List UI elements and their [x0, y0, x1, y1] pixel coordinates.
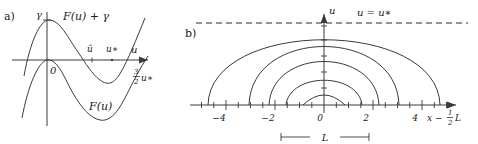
curve-F — [22, 56, 148, 120]
x-tick-label-1: −2 — [261, 113, 275, 123]
panel-a-x-axis-label: u — [131, 44, 137, 55]
x-axis-label-main: x − — [427, 113, 442, 123]
panel-b-label: b) — [185, 27, 196, 40]
x-axis-label-tail: L — [454, 113, 461, 123]
panel-b-x-axis — [190, 102, 456, 109]
x-tick-label-3: 2 — [362, 113, 369, 123]
three-halves-denominator: 2 — [133, 78, 139, 86]
three-halves-numerator: 3 — [134, 68, 139, 76]
u-star-label: u∗ — [106, 44, 118, 54]
curve-F-plus-gamma-label: F(u) + γ — [62, 10, 110, 23]
panel-a-label: a) — [4, 10, 15, 23]
width-bracket-label: L — [321, 132, 329, 143]
curve-F-plus-gamma — [24, 18, 145, 83]
panel-b: b) u = u∗ u −4 −2 0 2 4 x − 1 2 L — [180, 0, 478, 144]
figure-container: a) γ F(u) + γ F(u) 0 û u∗ u 3 2 u∗ — [0, 0, 478, 144]
x-tick-label-4: 4 — [411, 113, 418, 123]
panel-b-y-axis-label: u — [329, 5, 335, 16]
panel-a-svg: a) γ F(u) + γ F(u) 0 û u∗ u 3 2 u∗ — [0, 0, 180, 144]
panel-a: a) γ F(u) + γ F(u) 0 û u∗ u 3 2 u∗ — [0, 0, 180, 144]
u-hat-label: û — [87, 44, 93, 54]
x-tick-label-2: 0 — [317, 113, 323, 123]
three-halves-variable: u∗ — [141, 73, 153, 83]
u-star-dot — [111, 59, 113, 61]
x-tick-label-0: −4 — [212, 113, 226, 123]
asymptote-label: u = u∗ — [357, 7, 391, 18]
gamma-label: γ — [36, 9, 42, 20]
x-axis-label-frac-numer: 1 — [448, 109, 452, 117]
panel-b-svg: b) u = u∗ u −4 −2 0 2 4 x − 1 2 L — [180, 0, 478, 144]
curve-F-label: F(u) — [88, 100, 112, 113]
panel-a-origin-label: 0 — [50, 65, 57, 76]
x-axis-label-frac-denom: 2 — [447, 119, 453, 127]
panel-b-y-axis — [321, 14, 328, 113]
panel-b-x-axis-label: x − 1 2 L — [427, 109, 461, 127]
